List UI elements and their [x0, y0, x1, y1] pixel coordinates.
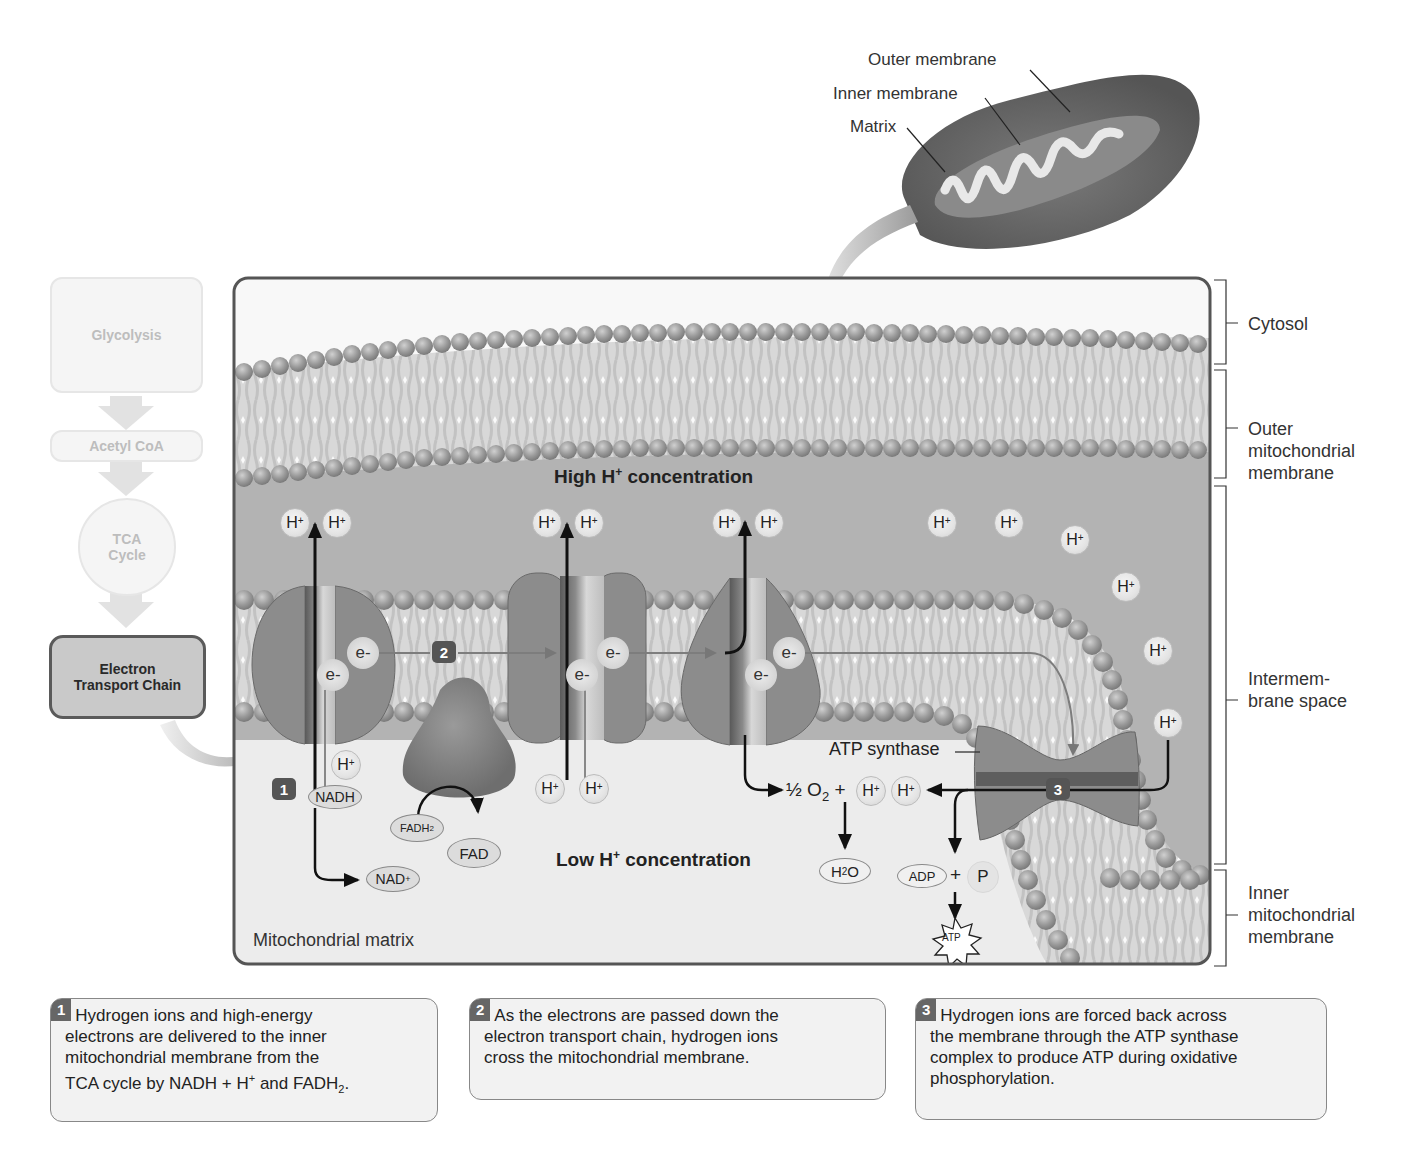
hydrogen-ion: H+ — [574, 508, 604, 538]
inner-membrane-label: Inner membrane — [833, 84, 958, 104]
electron: e- — [745, 659, 777, 691]
pathway-etc-label-1: Electron — [99, 661, 155, 677]
pathway-acetyl-coa-label: Acetyl CoA — [89, 438, 164, 454]
low-concentration-label: Low H+ concentration — [556, 848, 751, 871]
plus-sign: + — [950, 864, 961, 886]
step-number-2: 2 — [470, 999, 490, 1021]
nadh-molecule: NADH — [308, 785, 362, 809]
pathway-electron-transport-chain: Electron Transport Chain — [49, 635, 206, 719]
step-badge-1: 1 — [272, 778, 296, 800]
adp-molecule: ADP — [897, 864, 947, 888]
electron: e- — [317, 659, 349, 691]
oxygen-equation: ½ O2 + — [786, 779, 846, 804]
electron: e- — [597, 637, 629, 669]
hydrogen-ion: H+ — [535, 774, 565, 804]
hydrogen-ion: H+ — [712, 508, 742, 538]
electron: e- — [566, 659, 598, 691]
region-outer-membrane: Outermitochondrialmembrane — [1248, 418, 1355, 484]
pathway-tca-label-2: Cycle — [108, 547, 145, 563]
region-inner-membrane: Innermitochondrialmembrane — [1248, 882, 1355, 948]
atp-label: ATP — [942, 932, 961, 943]
step-badge-3: 3 — [1046, 778, 1070, 800]
hydrogen-ion: H+ — [322, 508, 352, 538]
hydrogen-ion: H+ — [927, 508, 957, 538]
matrix-label: Matrix — [850, 117, 896, 137]
hydrogen-ion: H+ — [994, 508, 1024, 538]
pathway-tca-label-1: TCA — [113, 531, 142, 547]
step-number-1: 1 — [51, 999, 71, 1021]
hydrogen-ion: H+ — [1153, 708, 1183, 738]
step-number-3: 3 — [916, 999, 936, 1021]
hydrogen-ion: H+ — [579, 774, 609, 804]
hydrogen-ion: H+ — [1143, 636, 1173, 666]
step-description-1: 1Hydrogen ions and high-energy electrons… — [50, 998, 438, 1122]
pathway-glycolysis: Glycolysis — [50, 277, 203, 393]
pathway-glycolysis-label: Glycolysis — [91, 327, 161, 343]
nad-plus-molecule: NAD+ — [366, 866, 420, 892]
phosphate: P — [967, 861, 999, 893]
water-molecule: H2O — [819, 858, 871, 884]
hydrogen-ion: H+ — [331, 750, 361, 780]
atp-synthase-label: ATP synthase — [829, 739, 939, 760]
hydrogen-ion: H+ — [1060, 525, 1090, 555]
electron: e- — [347, 637, 379, 669]
pathway-acetyl-coa: Acetyl CoA — [50, 430, 203, 462]
fadh2-molecule: FADH2 — [390, 814, 444, 842]
diagram-graphics — [0, 0, 1419, 1149]
step-badge-2: 2 — [432, 641, 456, 663]
mitochondrial-matrix-label: Mitochondrial matrix — [253, 930, 414, 951]
hydrogen-ion: H+ — [1111, 572, 1141, 602]
pathway-tca-cycle: TCA Cycle — [78, 498, 176, 596]
hydrogen-ion: H+ — [754, 508, 784, 538]
step-description-2: 2As the electrons are passed down the el… — [469, 998, 886, 1100]
outer-membrane-label: Outer membrane — [868, 50, 997, 70]
step-description-3: 3Hydrogen ions are forced back across th… — [915, 998, 1327, 1120]
hydrogen-ion: H+ — [280, 508, 310, 538]
region-brackets — [1214, 280, 1238, 966]
pathway-etc-label-2: Transport Chain — [74, 677, 181, 693]
hydrogen-ion: H+ — [891, 776, 921, 806]
region-intermembrane-space: Intermem-brane space — [1248, 668, 1347, 712]
high-concentration-label: High H+ concentration — [554, 465, 753, 488]
electron: e- — [773, 637, 805, 669]
fad-molecule: FAD — [447, 838, 501, 868]
region-cytosol: Cytosol — [1248, 313, 1308, 335]
hydrogen-ion: H+ — [856, 776, 886, 806]
hydrogen-ion: H+ — [532, 508, 562, 538]
